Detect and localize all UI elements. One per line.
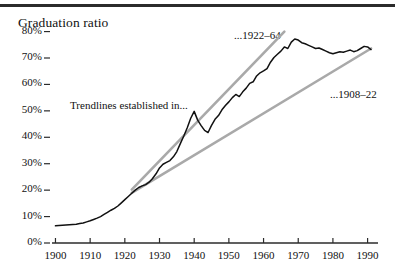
series-line bbox=[132, 32, 285, 190]
y-axis-label: 70% bbox=[4, 50, 42, 62]
y-axis-label: 0% bbox=[4, 235, 42, 247]
graduation-ratio-chart: Graduation ratio Trendlines established … bbox=[0, 7, 395, 279]
y-axis-label: 60% bbox=[4, 76, 42, 88]
y-axis-label: 40% bbox=[4, 129, 42, 141]
x-axis-label: 1990 bbox=[348, 249, 388, 261]
y-axis-label: 10% bbox=[4, 209, 42, 221]
data-series bbox=[55, 32, 371, 226]
y-axis-ticks bbox=[44, 32, 50, 243]
y-axis-label: 80% bbox=[4, 24, 42, 36]
y-axis-label: 30% bbox=[4, 156, 42, 168]
y-axis-label: 20% bbox=[4, 182, 42, 194]
series-line bbox=[55, 39, 371, 226]
x-axis-ticks bbox=[55, 238, 367, 243]
y-axis-label: 50% bbox=[4, 103, 42, 115]
chart-plot-area bbox=[0, 7, 395, 279]
series-line bbox=[132, 48, 371, 192]
